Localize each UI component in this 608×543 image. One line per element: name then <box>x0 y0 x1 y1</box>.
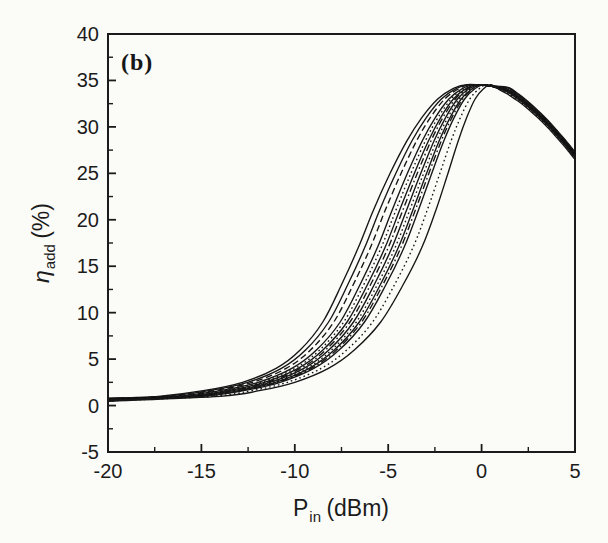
y-axis-label: ηadd (%) <box>28 203 55 283</box>
efficiency-curve <box>108 85 575 399</box>
plot-border <box>108 34 575 452</box>
x-tick-label: -15 <box>187 460 216 482</box>
y-tick-label: 15 <box>77 255 99 277</box>
efficiency-curve <box>108 85 575 401</box>
plot-frame <box>108 34 575 452</box>
y-tick-label: 0 <box>88 395 99 417</box>
efficiency-curve <box>108 85 575 400</box>
efficiency-curve <box>108 85 575 400</box>
efficiency-curve <box>108 85 575 401</box>
panel-label: (b) <box>121 49 153 76</box>
efficiency-curve <box>108 85 575 400</box>
y-tick-label: 40 <box>77 23 99 45</box>
efficiency-curve <box>108 85 575 401</box>
x-axis-label-subscript: in <box>309 508 321 525</box>
x-axis-label: Pin (dBm) <box>293 495 389 522</box>
curve-bundle <box>108 85 575 402</box>
x-tick-label: -20 <box>94 460 123 482</box>
efficiency-curve <box>108 85 575 399</box>
x-axis-label-symbol: P <box>293 495 308 521</box>
efficiency-curve <box>108 85 575 400</box>
x-axis-label-units: (dBm) <box>320 495 389 521</box>
x-tick-label: 0 <box>476 460 487 482</box>
y-tick-label: 20 <box>77 209 99 231</box>
x-tick-label: -10 <box>280 460 309 482</box>
efficiency-chart: -20-15-10-505-50510152025303540 <box>0 0 608 543</box>
axis-ticks <box>108 34 575 452</box>
efficiency-curve <box>108 85 575 400</box>
y-tick-label: 5 <box>88 348 99 370</box>
tick-labels: -20-15-10-505-50510152025303540 <box>77 23 581 482</box>
figure-panel-b: -20-15-10-505-50510152025303540 (b) Pin … <box>0 0 608 543</box>
efficiency-curve <box>108 85 575 400</box>
y-tick-label: 25 <box>77 162 99 184</box>
y-axis-label-units: (%) <box>28 203 54 245</box>
y-axis-label-symbol: η <box>28 270 54 283</box>
x-tick-label: -5 <box>379 460 397 482</box>
efficiency-curve <box>108 85 575 401</box>
y-tick-label: -5 <box>81 441 99 463</box>
y-tick-label: 10 <box>77 302 99 324</box>
y-axis-label-subscript: add <box>41 244 58 269</box>
efficiency-curve <box>108 85 575 402</box>
efficiency-curve <box>108 85 575 399</box>
y-tick-label: 35 <box>77 69 99 91</box>
x-tick-label: 5 <box>569 460 580 482</box>
y-tick-label: 30 <box>77 116 99 138</box>
